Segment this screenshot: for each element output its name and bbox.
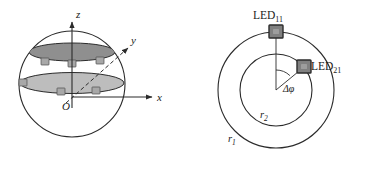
angle-label: Δφ [282,83,295,94]
angle-arc [276,70,290,76]
led-marker [92,87,100,94]
led-marker [57,88,65,95]
sphere-diagram-svg: z x y O [0,0,184,169]
led-marker [41,58,49,65]
topview-diagram-svg: LED11 LED21 Δφ r2 r1 [184,0,368,169]
origin-label: O [62,100,70,112]
led11-marker-inner [273,29,279,34]
outer-radius-label: r1 [228,133,236,147]
x-axis-label: x [156,91,162,103]
led11-label: LED11 [253,9,283,24]
sphere-diagram-panel: z x y O [0,0,184,169]
led-marker [96,57,104,64]
topview-diagram-panel: LED11 LED21 Δφ r2 r1 [184,0,368,169]
led21-marker-inner [301,64,307,69]
z-axis-label: z [75,8,81,20]
figure-root: z x y O [0,0,368,169]
led-marker [19,79,27,86]
led11-marker-group [269,25,283,38]
y-axis-label: y [130,34,136,46]
inner-radius-label: r2 [260,109,268,123]
led21-label: LED21 [311,60,341,75]
led21-marker-group [297,60,311,73]
